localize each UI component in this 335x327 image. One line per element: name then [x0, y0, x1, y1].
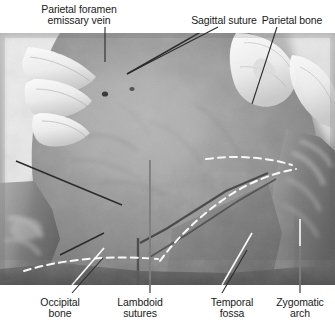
- film-grain: [0, 33, 335, 285]
- label-occipital-bone: Occipital bone: [16, 297, 104, 320]
- label-line-2: emissary vein: [0, 15, 158, 26]
- anatomical-figure: Parietal foramen emissary vein Sagittal …: [0, 0, 335, 327]
- photo-canvas: [0, 33, 335, 285]
- label-line-1: Parietal bone: [249, 15, 335, 26]
- label-parietal-bone: Parietal bone: [249, 15, 335, 26]
- label-line-2: bone: [16, 308, 104, 319]
- label-line-2: arch: [258, 308, 335, 319]
- label-lambdoid-sutures: Lambdoid sutures: [96, 297, 184, 320]
- label-parietal-foramen-emissary-vein: Parietal foramen emissary vein: [0, 4, 158, 27]
- skull-photograph: [0, 33, 335, 285]
- label-zygomatic-arch: Zygomatic arch: [258, 297, 335, 320]
- label-line-2: sutures: [96, 308, 184, 319]
